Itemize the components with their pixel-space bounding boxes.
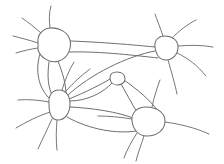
node-center-small [110,72,125,85]
node-top-left [38,28,71,62]
network-sketch-figure [0,0,224,164]
node-left-middle [49,90,70,120]
node-bottom-right [132,107,165,136]
sketch-canvas [0,0,224,164]
node-top-right [155,36,178,60]
